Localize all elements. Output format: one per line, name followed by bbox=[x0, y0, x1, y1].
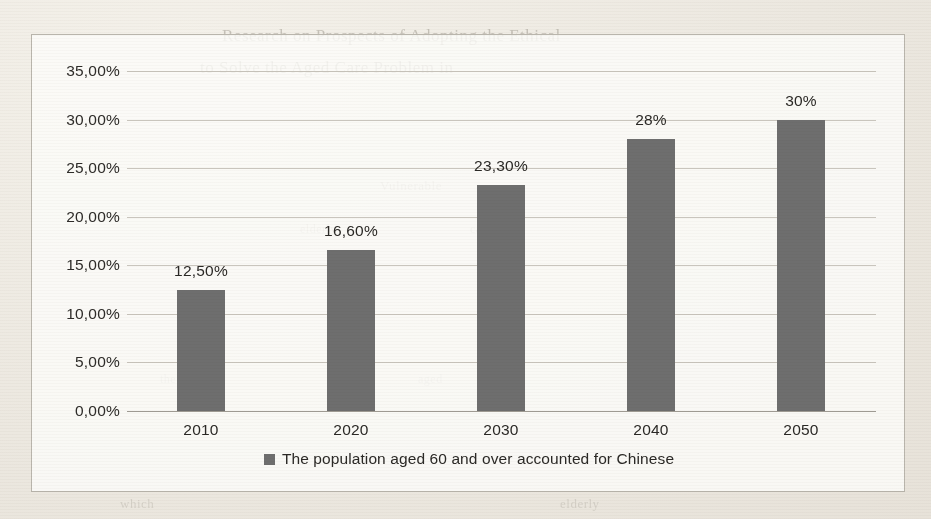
bar[interactable] bbox=[777, 120, 825, 411]
plot-area: 0,00%5,00%10,00%15,00%20,00%25,00%30,00%… bbox=[32, 35, 906, 493]
bar[interactable] bbox=[327, 250, 375, 411]
gridline bbox=[127, 120, 876, 121]
x-axis-tick-label: 2020 bbox=[296, 421, 406, 439]
bar-value-label: 16,60% bbox=[296, 222, 406, 240]
x-axis-tick-label: 2010 bbox=[146, 421, 256, 439]
x-axis-line bbox=[127, 411, 876, 412]
gridline bbox=[127, 71, 876, 72]
bar[interactable] bbox=[477, 185, 525, 411]
scanned-page: Research on Prospects of Adopting the Et… bbox=[0, 0, 931, 519]
y-axis-tick-label: 0,00% bbox=[30, 402, 120, 420]
y-axis-tick-label: 35,00% bbox=[30, 62, 120, 80]
x-axis-tick-label: 2050 bbox=[746, 421, 856, 439]
legend-label: The population aged 60 and over accounte… bbox=[282, 450, 674, 468]
y-axis-tick-label: 10,00% bbox=[30, 305, 120, 323]
bar-value-label: 28% bbox=[596, 111, 706, 129]
chart-container: 0,00%5,00%10,00%15,00%20,00%25,00%30,00%… bbox=[31, 34, 905, 492]
y-axis-tick-label: 5,00% bbox=[30, 353, 120, 371]
x-axis-tick-label: 2040 bbox=[596, 421, 706, 439]
bar-value-label: 23,30% bbox=[446, 157, 556, 175]
bar[interactable] bbox=[177, 290, 225, 411]
bleed-text-line: which bbox=[120, 496, 154, 512]
bar[interactable] bbox=[627, 139, 675, 411]
x-axis-tick-label: 2030 bbox=[446, 421, 556, 439]
bar-value-label: 30% bbox=[746, 92, 856, 110]
bar-value-label: 12,50% bbox=[146, 262, 256, 280]
y-axis-tick-label: 20,00% bbox=[30, 208, 120, 226]
bleed-text-line: elderly bbox=[560, 496, 600, 512]
y-axis-tick-label: 30,00% bbox=[30, 111, 120, 129]
y-axis-tick-label: 15,00% bbox=[30, 256, 120, 274]
y-axis-tick-label: 25,00% bbox=[30, 159, 120, 177]
chart-legend: The population aged 60 and over accounte… bbox=[32, 450, 906, 468]
legend-swatch-icon bbox=[264, 454, 275, 465]
